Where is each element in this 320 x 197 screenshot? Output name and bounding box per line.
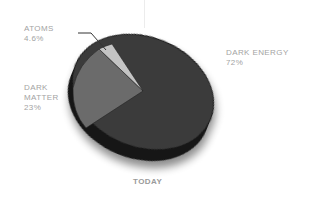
dark-matter-value: 23% bbox=[24, 103, 59, 113]
atoms-value: 4.6% bbox=[24, 34, 54, 44]
dark-matter-name-2: MATTER bbox=[24, 93, 59, 103]
chart-caption: TODAY bbox=[133, 177, 162, 187]
label-dark-matter: DARK MATTER 23% bbox=[24, 83, 59, 113]
dark-matter-name-1: DARK bbox=[24, 83, 59, 93]
dark-energy-name: DARK ENERGY bbox=[226, 48, 289, 58]
dark-energy-value: 72% bbox=[226, 58, 289, 68]
label-atoms: ATOMS 4.6% bbox=[24, 24, 54, 44]
label-dark-energy: DARK ENERGY 72% bbox=[226, 48, 289, 68]
atoms-name: ATOMS bbox=[24, 24, 54, 34]
